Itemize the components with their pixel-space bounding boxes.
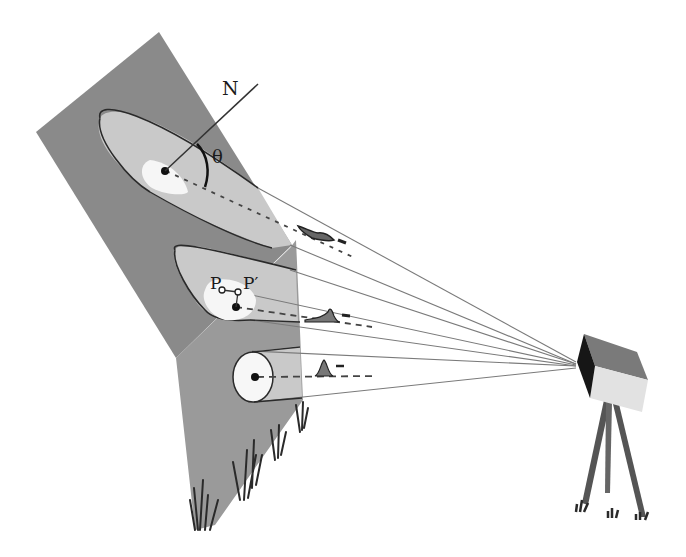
- tripod-leg-center: [605, 402, 612, 493]
- middle-pulse-waveform: [305, 309, 340, 322]
- normal-label: N: [222, 77, 239, 99]
- viewing-geometry-diagram: N θ P P′: [0, 0, 686, 557]
- point-p-prime: [235, 289, 241, 295]
- theta-label: θ: [212, 146, 223, 167]
- point-p-prime-label: P′: [243, 273, 258, 293]
- middle-pulse-arrow: [342, 315, 350, 316]
- top-pulse-arrow: [338, 240, 346, 243]
- bottom-center-dot: [251, 373, 259, 381]
- ray-bottom-lower: [256, 368, 576, 402]
- point-p-label: P: [210, 273, 221, 293]
- camera: [576, 334, 648, 520]
- bottom-pulse-waveform: [315, 360, 333, 376]
- tripod-leg-right: [612, 400, 646, 517]
- grass-tuft: [608, 508, 618, 518]
